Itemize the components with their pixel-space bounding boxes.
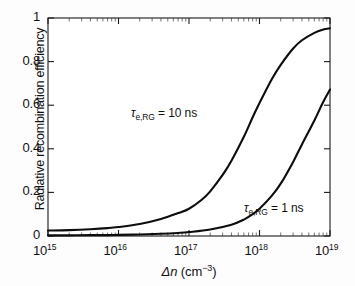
x-tick-exponent: 18	[259, 242, 268, 252]
x-tick-exponent: 19	[329, 242, 338, 252]
x-tick-label-3: 1018	[245, 242, 269, 258]
x-axis-title: Δn (cm−3)	[48, 263, 330, 279]
x-tick-base: 10	[245, 243, 259, 258]
x-tick-label-2: 1017	[174, 242, 198, 258]
x-tick-label-0: 1015	[33, 242, 57, 258]
annotation-value: = 1 ns	[268, 201, 304, 215]
annotation-tau-1ns: τe,RG = 1 ns	[244, 201, 304, 217]
x-tick-base: 10	[33, 243, 47, 258]
annotation-subscript: e,RG	[135, 112, 154, 122]
x-tick-exponent: 15	[47, 242, 56, 252]
y-axis-title: Radiative recombination efficiency	[33, 9, 47, 229]
x-tick-base: 10	[104, 243, 118, 258]
annotation-value: = 10 ns	[155, 106, 197, 120]
x-axis-title-exponent: −3	[202, 263, 212, 273]
figure-canvas: 00.20.40.60.81 10151016101710181019 Radi…	[0, 0, 355, 286]
annotation-tau-10ns: τe,RG = 10 ns	[131, 106, 197, 122]
x-tick-label-1: 1016	[104, 242, 128, 258]
annotation-subscript: e,RG	[248, 207, 267, 217]
x-tick-exponent: 17	[188, 242, 197, 252]
x-tick-base: 10	[174, 243, 188, 258]
y-tick-label-0: 0	[0, 227, 40, 242]
x-tick-label-4: 1019	[315, 242, 339, 258]
x-tick-base: 10	[315, 243, 329, 258]
x-axis-title-delta-n: Δn	[162, 264, 178, 279]
x-tick-exponent: 16	[118, 242, 127, 252]
